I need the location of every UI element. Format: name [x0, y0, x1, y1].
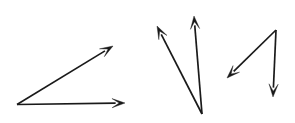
angles-diagram	[0, 0, 295, 123]
